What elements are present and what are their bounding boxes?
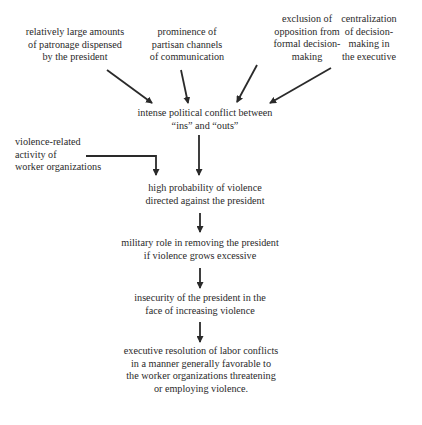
arrow-channels-to-conflict	[181, 70, 188, 103]
node-line: or employing violence.	[95, 383, 307, 396]
node-line: insecurity of the president in the	[100, 292, 300, 305]
node-line: violence-related	[15, 136, 125, 149]
node-line: directed against the president	[110, 195, 300, 208]
node-line: high probability of violence	[110, 182, 300, 195]
node-line: executive resolution of labor conflicts	[95, 345, 307, 358]
node-line: worker organizations	[15, 161, 125, 174]
node-insecurity: insecurity of the president in the face …	[100, 292, 300, 317]
node-line: partisan channels	[140, 39, 234, 52]
arrow-exclusion-to-conflict	[237, 65, 257, 102]
node-line: of patronage dispensed	[15, 39, 135, 52]
node-line: relatively large amounts	[15, 26, 135, 39]
arrow-centralization-to-conflict	[270, 68, 331, 103]
arrow-patronage-to-conflict	[107, 70, 152, 103]
node-line: in a manner generally favorable to	[95, 358, 307, 371]
node-line: “ins” and “outs”	[110, 120, 300, 133]
node-line: prominence of	[140, 26, 234, 39]
node-line: face of increasing violence	[100, 305, 300, 318]
node-centralization: centralization of decision- making in th…	[328, 13, 410, 63]
node-patronage: relatively large amounts of patronage di…	[15, 26, 135, 64]
node-worker-activity: violence-related activity of worker orga…	[15, 136, 125, 174]
node-line: of decision-	[328, 26, 410, 39]
node-violence: high probability of violence directed ag…	[110, 182, 300, 207]
node-line: of communication	[140, 51, 234, 64]
node-line: centralization	[328, 13, 410, 26]
node-line: activity of	[15, 149, 125, 162]
node-conflict: intense political conflict between “ins”…	[110, 107, 300, 132]
node-military: military role in removing the president …	[90, 237, 310, 262]
node-line: intense political conflict between	[110, 107, 300, 120]
node-line: the worker organizations threatening	[95, 370, 307, 383]
node-line: if violence grows excessive	[90, 250, 310, 263]
node-line: military role in removing the president	[90, 237, 310, 250]
node-partisan-channels: prominence of partisan channels of commu…	[140, 26, 234, 64]
node-line: by the president	[15, 51, 135, 64]
node-line: making in	[328, 38, 410, 51]
node-outcome: executive resolution of labor conflicts …	[95, 345, 307, 395]
node-line: the executive	[328, 51, 410, 64]
